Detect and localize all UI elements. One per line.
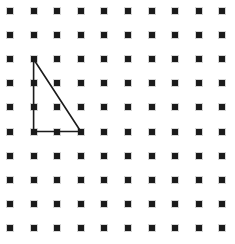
geoboard-canvas [0,0,235,244]
right-triangle-outline [34,59,81,131]
shape-layer [0,0,235,244]
